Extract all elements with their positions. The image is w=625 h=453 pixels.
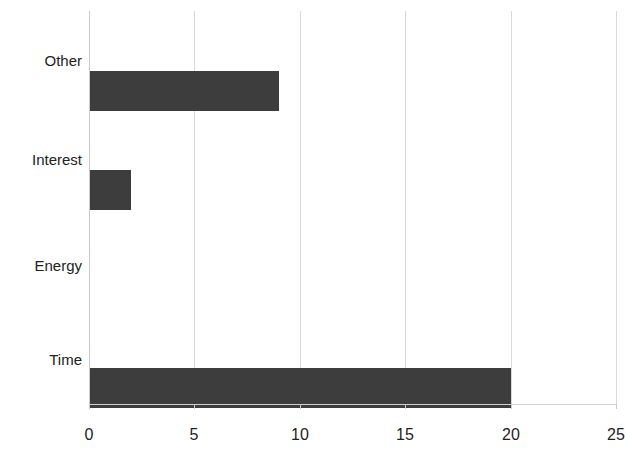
gridline-10 [300,11,301,404]
gridline-20 [511,11,512,404]
x-axis-line [89,404,617,405]
y-axis-line [89,11,90,405]
gridline-25 [616,11,617,404]
x-axis-label-0: 0 [59,425,119,444]
y-axis-label-interest: Interest [0,151,82,169]
tick-mark-20 [511,404,512,409]
y-axis-label-energy: Energy [0,257,82,275]
tick-mark-25 [616,404,617,409]
plot-area [89,11,616,404]
y-axis-labels: Other Interest Energy Time [0,0,82,453]
y-axis-label-other: Other [0,52,82,70]
x-axis-label-20: 20 [481,425,541,444]
x-axis-label-5: 5 [164,425,224,444]
tick-mark-5 [194,404,195,409]
x-axis-label-10: 10 [270,425,330,444]
bar-interest [89,170,131,210]
gridline-15 [405,11,406,404]
tick-mark-15 [405,404,406,409]
bar-time [89,368,511,408]
y-axis-label-time: Time [0,351,82,369]
bar-chart: Other Interest Energy Time 0 5 10 15 20 … [0,0,625,453]
x-axis-label-15: 15 [375,425,435,444]
tick-mark-10 [300,404,301,409]
tick-mark-0 [89,404,90,409]
x-axis-label-25: 25 [586,425,625,444]
bar-other [89,71,279,111]
